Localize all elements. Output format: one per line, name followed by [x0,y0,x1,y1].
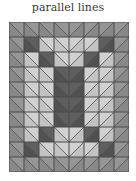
tile [69,52,84,67]
tile [39,22,54,37]
tile [99,142,114,157]
tile [39,37,54,52]
tile [54,37,69,52]
tile [9,157,24,172]
tile [54,82,69,97]
tile [99,157,114,172]
tile [69,67,84,82]
tile [54,112,69,127]
tile [99,112,114,127]
tile [24,157,39,172]
tile [54,22,69,37]
tile [114,127,129,142]
tile [84,142,99,157]
tile [69,112,84,127]
tile [84,22,99,37]
tile [39,82,54,97]
tile [69,37,84,52]
tile [69,22,84,37]
tile [99,127,114,142]
tile [24,112,39,127]
tile [69,82,84,97]
tile [24,97,39,112]
tile [9,22,24,37]
tile [114,22,129,37]
tile [84,37,99,52]
tile [9,112,24,127]
tile [69,157,84,172]
tile [84,82,99,97]
tile [114,37,129,52]
tile [99,67,114,82]
tile [84,157,99,172]
tile [24,127,39,142]
tile [39,67,54,82]
figure-title: parallel lines [0,1,136,14]
tile [24,67,39,82]
tile [24,52,39,67]
tile [9,82,24,97]
tile [9,127,24,142]
tile [84,127,99,142]
tile [54,127,69,142]
tile [54,67,69,82]
tile [24,142,39,157]
tile [84,67,99,82]
tile [69,142,84,157]
tile [99,22,114,37]
tile [24,37,39,52]
tile [54,157,69,172]
tile [69,97,84,112]
tile [39,52,54,67]
tile [9,142,24,157]
tile [99,37,114,52]
tile [99,97,114,112]
tile [39,142,54,157]
tile [9,37,24,52]
tile [9,52,24,67]
tile [84,52,99,67]
tile-grid [9,22,129,172]
tile [84,112,99,127]
tile [114,142,129,157]
tile [99,82,114,97]
tile [54,97,69,112]
tile-grid-canvas [9,22,129,172]
tile [24,22,39,37]
tile [9,97,24,112]
tile [54,52,69,67]
tile [9,67,24,82]
tile [54,142,69,157]
tile [84,97,99,112]
tile [24,82,39,97]
tile [39,157,54,172]
tile [39,127,54,142]
tile [39,112,54,127]
tile [114,52,129,67]
tile [114,112,129,127]
tile [114,97,129,112]
tile [114,67,129,82]
tile [114,82,129,97]
tile [69,127,84,142]
tile [99,52,114,67]
tile [39,97,54,112]
tile [114,157,129,172]
